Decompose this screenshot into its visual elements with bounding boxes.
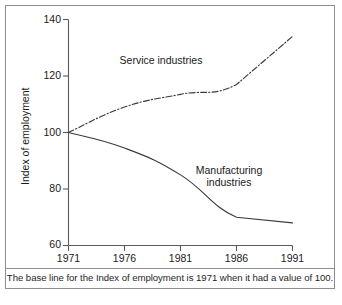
figure-frame [5, 5, 335, 289]
figure-caption: The base line for the Index of employmen… [6, 272, 334, 284]
chart-figure: Index of employment 140 120 100 80 60 19… [0, 0, 342, 305]
